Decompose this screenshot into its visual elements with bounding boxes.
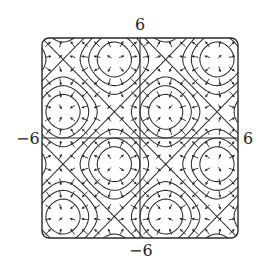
level-curve [46,94,183,234]
x-max-label: 6 [243,131,253,147]
x-min-label: −6 [16,131,40,147]
arrow-heads [48,41,235,232]
level-curve [97,42,234,182]
y-min-label: −6 [129,243,153,259]
y-max-label: 6 [135,17,145,33]
